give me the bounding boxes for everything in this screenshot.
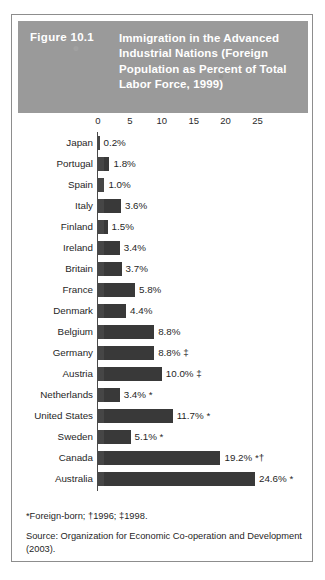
- bar-row: Italy3.6%: [12, 196, 313, 217]
- bar-row-label: Britain: [12, 263, 93, 274]
- bar-row-label: Netherlands: [12, 389, 93, 400]
- bar-row: Germany8.8% ‡: [12, 343, 313, 364]
- bar-row: Netherlands3.4% *: [12, 385, 313, 406]
- bar: [98, 325, 154, 339]
- bar-row-label: Ireland: [12, 242, 93, 253]
- bar-row-label: Australia: [12, 473, 93, 484]
- x-axis-tick: 15: [188, 115, 199, 126]
- bar-row-label: France: [12, 284, 93, 295]
- bar-value-label: 1.0%: [108, 179, 130, 190]
- bar-value-label: 5.1% *: [135, 431, 164, 442]
- bar-row: Finland1.5%: [12, 217, 313, 238]
- footnotes: *Foreign-born; †1996; ‡1998. Source: Org…: [26, 511, 304, 556]
- bar-value-label: 1.5%: [112, 221, 134, 232]
- bar: [98, 304, 126, 318]
- x-axis-tick: 25: [252, 115, 263, 126]
- footnote-source: Source: Organization for Economic Co-ope…: [26, 530, 304, 556]
- bar: [98, 157, 109, 171]
- bar: [98, 472, 255, 486]
- bar-row: Canada19.2% *†: [12, 448, 313, 469]
- x-axis-tick: 20: [220, 115, 231, 126]
- bar-row: Ireland3.4%: [12, 238, 313, 259]
- bar-value-label: 5.8%: [139, 284, 161, 295]
- bar-row-label: Sweden: [12, 431, 93, 442]
- bar-row-label: Japan: [12, 137, 93, 148]
- bar-row: Australia24.6% *: [12, 469, 313, 490]
- bar: [98, 199, 121, 213]
- bar-row-label: Belgium: [12, 326, 93, 337]
- figure-header-band: Figure 10.1 Immigration in the Advanced …: [18, 21, 308, 113]
- bar-value-label: 3.7%: [126, 263, 148, 274]
- footnote-symbols: *Foreign-born; †1996; ‡1998.: [26, 511, 304, 521]
- bar-row: Britain3.7%: [12, 259, 313, 280]
- x-axis-tick: 5: [127, 115, 132, 126]
- bar: [98, 388, 120, 402]
- bar: [98, 451, 220, 465]
- bar-value-label: 10.0% ‡: [166, 368, 202, 379]
- bar-row: Japan0.2%: [12, 133, 313, 154]
- bar-row-label: Germany: [12, 347, 93, 358]
- bar-value-label: 3.4% *: [124, 389, 153, 400]
- bar-row: Portugal1.8%: [12, 154, 313, 175]
- figure-container: Figure 10.1 Immigration in the Advanced …: [11, 14, 313, 562]
- bar: [98, 409, 173, 423]
- bar-value-label: 3.6%: [125, 200, 147, 211]
- bar: [98, 241, 120, 255]
- bar-row: Denmark4.4%: [12, 301, 313, 322]
- bar: [98, 262, 122, 276]
- bar-value-label: 0.2%: [104, 137, 126, 148]
- bar-value-label: 8.8%: [158, 326, 180, 337]
- bar-value-label: 24.6% *: [259, 473, 293, 484]
- bar-row-label: Denmark: [12, 305, 93, 316]
- x-axis-tick: 10: [157, 115, 168, 126]
- bar-row: Belgium8.8%: [12, 322, 313, 343]
- bar: [98, 346, 154, 360]
- bar: [98, 283, 135, 297]
- bar-chart: 0510152025 Japan0.2%Portugal1.8%Spain1.0…: [12, 115, 313, 505]
- bar-value-label: 3.4%: [124, 242, 146, 253]
- x-axis-tick: 0: [95, 115, 100, 126]
- bar-row-label: Austria: [12, 368, 93, 379]
- bar-value-label: 1.8%: [113, 158, 135, 169]
- bar-value-label: 4.4%: [130, 305, 152, 316]
- bar: [98, 136, 100, 150]
- figure-number: Figure 10.1: [30, 31, 94, 43]
- bar-row-label: Canada: [12, 452, 93, 463]
- bar-row: Sweden5.1% *: [12, 427, 313, 448]
- bar-row-label: United States: [12, 410, 93, 421]
- bar: [98, 178, 104, 192]
- bar-value-label: 19.2% *†: [224, 452, 264, 463]
- bar-value-label: 11.7% *: [177, 410, 211, 421]
- bar-row-label: Spain: [12, 179, 93, 190]
- bar-row-label: Finland: [12, 221, 93, 232]
- bar: [98, 220, 108, 234]
- bar-value-label: 8.8% ‡: [158, 347, 189, 358]
- figure-title: Immigration in the Advanced Industrial N…: [119, 31, 301, 93]
- bar: [98, 430, 131, 444]
- bar-row-label: Italy: [12, 200, 93, 211]
- bar: [98, 367, 162, 381]
- bar-row: Austria10.0% ‡: [12, 364, 313, 385]
- bar-row-label: Portugal: [12, 158, 93, 169]
- bar-row: Spain1.0%: [12, 175, 313, 196]
- bar-row: United States11.7% *: [12, 406, 313, 427]
- bar-row: France5.8%: [12, 280, 313, 301]
